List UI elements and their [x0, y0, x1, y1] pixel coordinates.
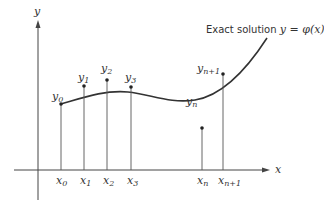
label-x2: x2: [103, 174, 114, 188]
point-y3: [129, 85, 133, 89]
label-yn1: yn+1: [196, 62, 220, 76]
label-x3: x3: [127, 174, 138, 188]
label-x1: x1: [80, 174, 91, 188]
label-yn: yn: [185, 95, 197, 109]
label-y1: y1: [77, 71, 89, 85]
point-yn: [200, 126, 204, 130]
label-x0: x0: [56, 174, 67, 188]
exact-solution-curve: [61, 38, 267, 104]
label-y2: y2: [100, 62, 112, 76]
curve-label: Exact solution y = φ(x): [206, 23, 324, 36]
label-xn1: xn+1: [218, 174, 241, 188]
label-xn: xn: [197, 174, 208, 188]
point-y2: [105, 78, 109, 82]
point-yn1: [221, 72, 225, 76]
x-axis-label: x: [275, 163, 282, 176]
x-axis-arrow-icon: [262, 168, 270, 173]
y-axis-arrow-icon: [36, 20, 41, 28]
y-axis-label: y: [33, 5, 41, 18]
label-y3: y3: [124, 71, 136, 85]
diagram-canvas: y x y0 y1 y2 y3 yn yn+1 x0 x1 x2: [0, 0, 324, 209]
label-y0: y0: [51, 90, 63, 104]
